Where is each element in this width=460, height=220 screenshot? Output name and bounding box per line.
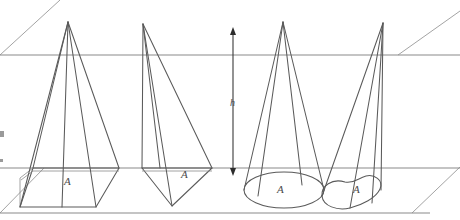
geometry-illustration [0,0,460,220]
diagram-canvas: A A A A h [0,0,460,220]
tetrahedron-edge-left [142,24,143,168]
area-label-pyramid: A [64,176,71,187]
tetrahedron-base-outline [142,168,212,206]
area-label-cone: A [277,184,284,195]
height-arrow-head-up [230,27,236,35]
lower-plane-left-diagonal [0,168,44,213]
tetrahedron-edge-right [143,24,212,168]
cone-edge-right [283,22,324,190]
left-margin-marks [0,131,4,162]
upper-plane-left-diagonal [0,0,60,55]
pyramid-base-outline [20,168,119,207]
pyramid-edge-back-right [68,22,119,168]
upper-plane-right-diagonal [398,11,460,55]
cone-base-ellipse [244,172,324,208]
cone-edge-inner-right [283,22,302,185]
oblique-tetrahedron [142,24,212,206]
pyramid-edge-front-right [68,22,96,207]
tetrahedron-edge-inner [143,24,160,168]
oblique-blob-cone [322,23,383,209]
cone-edge-inner-left [258,22,283,196]
left-margin-mark-upper [0,131,4,137]
circular-cone [244,22,324,208]
cone-edge-left [244,22,283,190]
pyramid-edge-back-left [33,22,68,168]
lower-plane [0,167,460,213]
left-margin-mark-lower [0,159,3,162]
tetrahedron-edge-front [143,24,172,206]
blob-cone-edge-mid [350,23,383,208]
lower-plane-right-diagonal [412,167,460,213]
blob-cone-base-outline [322,176,381,209]
height-label: h [230,98,235,108]
height-arrow-head-down [230,168,236,176]
area-label-blob-cone: A [353,184,360,195]
area-label-tetrahedron: A [181,169,188,180]
pyramid-edge-front-left [20,22,68,207]
